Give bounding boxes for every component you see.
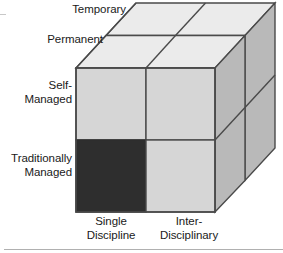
row-label-self-managed: Self- Managed: [0, 79, 72, 106]
depth-label-permanent: Permanent: [0, 33, 103, 47]
front-cell-self-managed-interdisciplinary[interactable]: [146, 68, 215, 140]
row-label-traditionally-managed: Traditionally Managed: [0, 152, 72, 179]
front-cell-traditionally-managed-interdisciplinary[interactable]: [146, 140, 215, 212]
column-label-inter-disciplinary: Inter- Disciplinary: [146, 215, 232, 242]
front-cell-traditionally-managed-single[interactable]: [76, 140, 146, 212]
front-cell-self-managed-single[interactable]: [76, 68, 146, 140]
diagram-canvas: Temporary Permanent Self- Managed Tradit…: [0, 0, 283, 253]
column-label-single-discipline: Single Discipline: [76, 215, 146, 242]
page-divider-rule: [4, 249, 283, 250]
depth-label-temporary: Temporary: [0, 3, 126, 17]
